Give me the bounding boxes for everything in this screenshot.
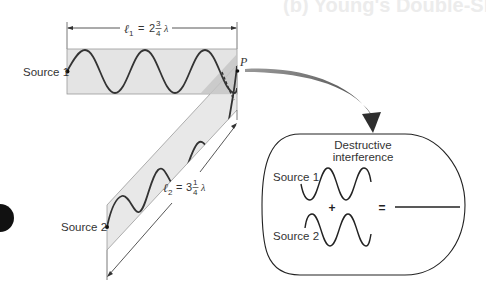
svg-text:4: 4 [156, 29, 161, 38]
inset-title-line1: Destructive [334, 139, 392, 151]
page-marker-dot [0, 204, 14, 232]
svg-text:3: 3 [156, 19, 161, 28]
path1-length-label: ℓ 1 = 2 3 4 λ [124, 19, 169, 38]
interference-diagram: (b) Young's Double-Slit Experiment ℓ 1 =… [0, 0, 486, 297]
svg-text:λ: λ [200, 182, 206, 193]
svg-text:1: 1 [129, 29, 134, 38]
point-p-label: P [239, 55, 248, 69]
inset-title-line2: interference [333, 151, 394, 163]
plus-sign: + [328, 201, 335, 215]
svg-text:3: 3 [186, 181, 192, 193]
svg-text:λ: λ [163, 23, 169, 34]
svg-text:=: = [138, 22, 144, 34]
svg-text:4: 4 [193, 188, 198, 197]
source2-label: Source 2 [61, 221, 107, 233]
source1-label: Source 1 [23, 66, 69, 78]
inset-source2-label: Source 2 [273, 230, 319, 242]
arrow-head [362, 112, 381, 133]
svg-text:1: 1 [193, 178, 198, 187]
diagram-canvas: ℓ 1 = 2 3 4 λ ℓ [0, 0, 486, 297]
point-p [236, 69, 240, 73]
svg-text:2: 2 [149, 22, 155, 34]
inset-source1-label: Source 1 [273, 171, 319, 183]
svg-text:=: = [176, 181, 182, 193]
background-heading: (b) Young's Double-Slit Experiment [283, 0, 486, 17]
curved-arrow [245, 69, 378, 130]
equals-sign: = [378, 201, 385, 215]
svg-text:2: 2 [168, 188, 173, 197]
